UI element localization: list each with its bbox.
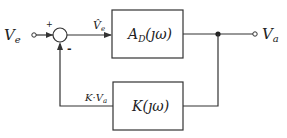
- input-terminal: [32, 33, 36, 37]
- summing-junction: [53, 28, 67, 42]
- feedback-path-right: [183, 34, 218, 106]
- error-signal-label: V̂e: [93, 19, 105, 33]
- error-arrow-icon: [104, 32, 112, 38]
- minus-sign: -: [67, 42, 72, 55]
- output-terminal: [253, 32, 257, 36]
- input-label: Ve: [4, 26, 21, 45]
- output-label: Va: [262, 25, 279, 44]
- feedback-signal-label: K·Va: [84, 92, 107, 105]
- input-arrow-icon: [46, 32, 53, 38]
- feedback-diagram: Ve + - V̂e AD(ȷω) Va K(ȷω) K·Va: [0, 0, 287, 138]
- forward-block-label: AD(ȷω): [126, 26, 172, 44]
- plus-sign: +: [46, 20, 53, 29]
- feedback-arrow-icon: [57, 42, 63, 50]
- feedback-block-label: K(ȷω): [131, 98, 169, 114]
